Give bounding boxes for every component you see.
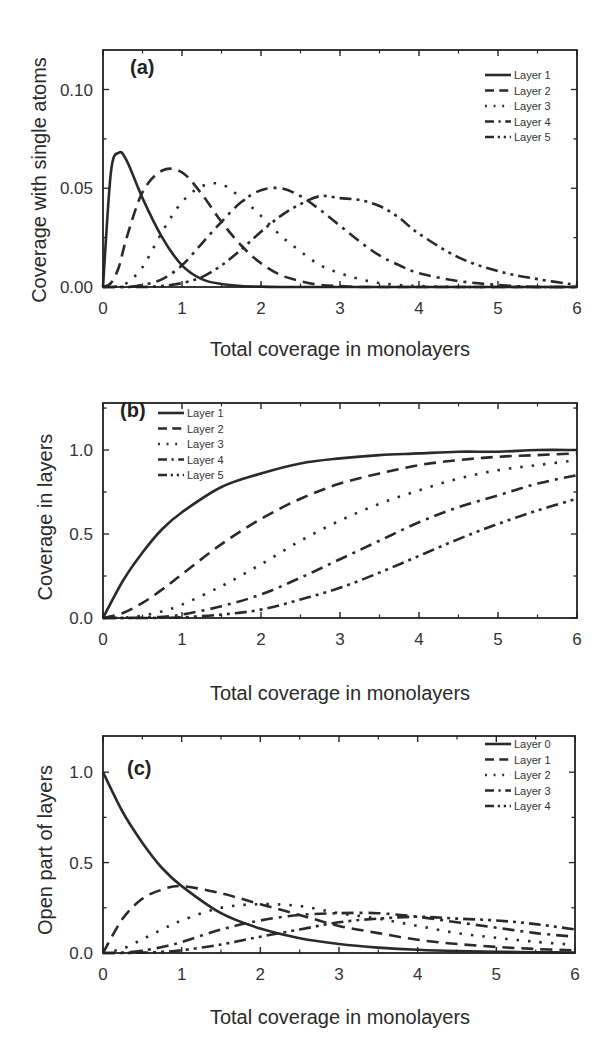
panel-c-legend-item: Layer 2: [485, 769, 551, 781]
panel-a-x-tick-label: 6: [572, 299, 581, 318]
panel-c-legend-item: Layer 1: [485, 754, 551, 766]
panel-b-y-tick-label: 0.5: [69, 525, 93, 544]
legend-label: Layer 4: [187, 454, 224, 466]
panel-a-x-tick-label: 4: [414, 299, 423, 318]
panel-b-label: (b): [120, 399, 146, 421]
panel-b-y-tick-label: 0.0: [69, 609, 93, 628]
panel-c-label: (c): [127, 757, 151, 779]
legend-label: Layer 1: [187, 407, 224, 419]
legend-label: Layer 4: [514, 800, 551, 812]
panel-a-curve-layer-4: [103, 188, 577, 287]
panel-a-label: (a): [130, 56, 154, 78]
legend-label: Layer 3: [514, 785, 551, 797]
panel-c-legend: Layer 0Layer 1Layer 2Layer 3Layer 4: [485, 738, 551, 812]
legend-label: Layer 0: [514, 738, 551, 750]
panel-a-y-tick-label: 0.10: [60, 81, 93, 100]
panel-a: 01234560.000.050.10 (a) Total coverage i…: [28, 50, 582, 360]
panel-b-curve-layer-1: [103, 450, 577, 618]
panel-c-x-tick-label: 0: [98, 965, 107, 984]
legend-label: Layer 1: [514, 69, 551, 81]
panel-a-legend-item: Layer 5: [485, 131, 551, 143]
panel-b-legend: Layer 1Layer 2Layer 3Layer 4Layer 5: [158, 407, 224, 481]
panel-b-curve-layer-2: [103, 453, 577, 618]
panel-a-legend: Layer 1Layer 2Layer 3Layer 4Layer 5: [485, 69, 551, 143]
panel-a-x-tick-label: 2: [256, 299, 265, 318]
panel-c-legend-item: Layer 0: [485, 738, 551, 750]
legend-label: Layer 2: [514, 85, 551, 97]
panel-b-legend-item: Layer 1: [158, 407, 224, 419]
panel-a-legend-item: Layer 4: [485, 116, 551, 128]
panel-b-y-title: Coverage in layers: [34, 434, 56, 601]
panel-a-curves: [103, 152, 577, 287]
legend-label: Layer 3: [187, 438, 224, 450]
panel-a-x-tick-label: 5: [493, 299, 502, 318]
legend-label: Layer 2: [187, 423, 224, 435]
panel-b-x-title: Total coverage in monolayers: [210, 682, 470, 704]
panel-b-x-tick-label: 4: [414, 630, 423, 649]
panel-c-x-tick-label: 5: [492, 965, 501, 984]
legend-label: Layer 2: [514, 769, 551, 781]
panel-b-y-tick-label: 1.0: [69, 441, 93, 460]
panel-b-frame: [103, 403, 577, 618]
panel-a-frame: [103, 50, 577, 287]
panel-c-x-tick-label: 4: [413, 965, 422, 984]
panel-a-x-title: Total coverage in monolayers: [210, 338, 470, 360]
panel-b-curve-layer-4: [103, 475, 577, 618]
panel-b-x-tick-label: 1: [177, 630, 186, 649]
panel-c-x-title: Total coverage in monolayers: [210, 1006, 470, 1028]
legend-label: Layer 4: [514, 116, 551, 128]
panel-a-x-tick-label: 3: [335, 299, 344, 318]
panel-c-y-tick-label: 0.0: [69, 944, 93, 963]
panel-c-legend-item: Layer 4: [485, 800, 551, 812]
panel-b: 01234560.00.51.0 (b) Total coverage in m…: [34, 399, 582, 704]
panel-b-x-tick-label: 6: [572, 630, 581, 649]
panel-a-y-title: Coverage with single atoms: [28, 57, 50, 303]
panel-c-curves: [103, 772, 575, 953]
panel-a-y-tick-label: 0.05: [60, 179, 93, 198]
panel-c-x-tick-label: 1: [177, 965, 186, 984]
panel-a-y-tick-label: 0.00: [60, 278, 93, 297]
panel-a-curve-layer-1: [103, 152, 577, 287]
panel-c-y-tick-label: 0.5: [69, 854, 93, 873]
panel-c-legend-item: Layer 3: [485, 785, 551, 797]
panel-b-curves: [103, 450, 577, 618]
panel-c: 01234560.00.51.0 (c) Total coverage in m…: [34, 736, 580, 1028]
panel-a-curve-layer-2: [103, 169, 577, 287]
panel-c-x-tick-label: 2: [256, 965, 265, 984]
panel-b-x-tick-label: 5: [493, 630, 502, 649]
legend-label: Layer 1: [514, 754, 551, 766]
figure: 01234560.000.050.10 (a) Total coverage i…: [0, 0, 613, 1047]
panel-b-legend-item: Layer 4: [158, 454, 224, 466]
panel-c-x-tick-label: 6: [570, 965, 579, 984]
panel-a-x-tick-label: 0: [98, 299, 107, 318]
panel-a-x-tick-label: 1: [177, 299, 186, 318]
panel-b-x-tick-label: 3: [335, 630, 344, 649]
panel-c-y-tick-label: 1.0: [69, 763, 93, 782]
legend-label: Layer 3: [514, 100, 551, 112]
panel-a-legend-item: Layer 2: [485, 85, 551, 97]
panel-c-x-tick-label: 3: [334, 965, 343, 984]
legend-label: Layer 5: [187, 469, 224, 481]
panel-b-legend-item: Layer 3: [158, 438, 224, 450]
panel-b-x-tick-label: 0: [98, 630, 107, 649]
panel-b-legend-item: Layer 5: [158, 469, 224, 481]
legend-label: Layer 5: [514, 131, 551, 143]
panel-b-legend-item: Layer 2: [158, 423, 224, 435]
panel-a-legend-item: Layer 3: [485, 100, 551, 112]
panel-c-y-title: Open part of layers: [34, 765, 56, 935]
panel-b-ticks: 01234560.00.51.0: [69, 403, 581, 649]
panel-a-legend-item: Layer 1: [485, 69, 551, 81]
panel-b-x-tick-label: 2: [256, 630, 265, 649]
